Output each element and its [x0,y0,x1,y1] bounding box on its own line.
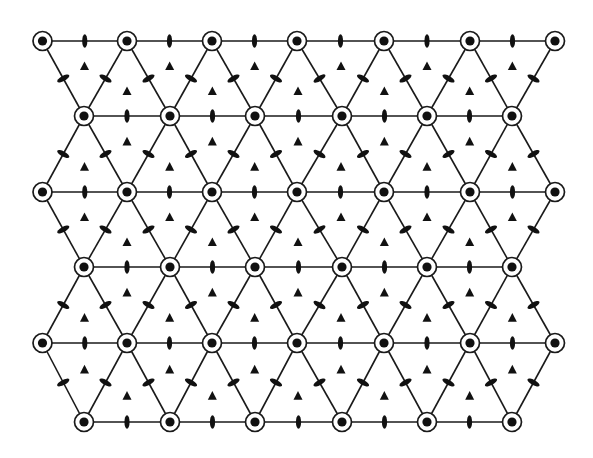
two-fold-axis-icon [312,377,326,388]
three-fold-axis-icon [123,86,132,95]
node-dot [250,262,259,271]
node-dot [337,417,346,426]
node-dot [79,262,88,271]
two-fold-axis-icon [167,185,172,199]
six-fold-axis-icon [246,413,265,432]
three-fold-axis-icon [250,162,259,171]
three-fold-axis-icon [250,313,259,322]
two-fold-axis-icon [184,73,198,84]
two-fold-axis-icon [484,224,498,235]
six-fold-axis-icon [118,334,137,353]
two-fold-axis-icon [226,73,240,84]
six-fold-axis-icon [503,413,522,432]
node-dot [292,187,301,196]
node-dot [122,338,131,347]
six-fold-axis-icon [461,334,480,353]
three-fold-axis-icon [508,212,517,221]
node-dot [38,36,47,45]
two-fold-axis-icon [210,260,215,274]
node-dot [292,338,301,347]
two-fold-axis-icon [56,299,70,310]
two-fold-axis-icon [510,185,515,199]
three-fold-axis-icon [508,61,517,70]
two-fold-axis-icon [424,336,429,350]
six-fold-axis-icon [203,183,222,202]
node-dot [550,338,559,347]
two-fold-axis-icon [82,336,87,350]
two-fold-axis-icon [484,377,498,388]
three-fold-axis-icon [465,86,474,95]
three-fold-axis-icon [123,391,132,400]
two-fold-axis-icon [98,377,112,388]
node-dot [207,187,216,196]
node-dot [337,262,346,271]
two-fold-axis-icon [141,299,155,310]
node-dot [292,36,301,45]
two-fold-axis-icon [252,336,257,350]
six-fold-axis-icon [375,334,394,353]
two-fold-axis-icon [98,73,112,84]
two-fold-axis-icon [252,185,257,199]
six-fold-axis-icon [161,258,180,277]
two-fold-axis-icon [398,224,412,235]
three-fold-axis-icon [123,137,132,146]
two-fold-axis-icon [526,73,540,84]
node-dot [507,262,516,271]
node-dot [165,417,174,426]
two-fold-axis-icon [382,260,387,274]
three-fold-axis-icon [294,288,303,297]
three-fold-axis-icon [423,313,432,322]
two-fold-axis-icon [526,224,540,235]
six-fold-axis-icon [288,334,307,353]
three-fold-axis-icon [337,212,346,221]
two-fold-axis-icon [124,260,129,274]
three-fold-axis-icon [294,86,303,95]
two-fold-axis-icon [252,34,257,48]
two-fold-axis-icon [467,415,472,429]
two-fold-axis-icon [269,224,283,235]
node-dot [79,417,88,426]
three-fold-axis-icon [465,137,474,146]
two-fold-axis-icon [356,148,370,159]
three-fold-axis-icon [123,237,132,246]
three-fold-axis-icon [208,288,217,297]
three-fold-axis-icon [208,86,217,95]
two-fold-axis-icon [424,34,429,48]
six-fold-axis-icon [33,183,52,202]
node-dot [422,111,431,120]
two-fold-axis-icon [398,148,412,159]
three-fold-axis-icon [165,61,174,70]
six-fold-axis-icon [33,334,52,353]
two-fold-axis-icon [484,148,498,159]
two-fold-axis-icon [398,377,412,388]
six-fold-axis-icon [461,32,480,51]
two-fold-axis-icon [210,415,215,429]
two-fold-axis-icon [56,148,70,159]
node-dot [79,111,88,120]
three-fold-axis-icon [337,365,346,374]
two-fold-axis-icon [269,148,283,159]
two-fold-axis-icon [98,148,112,159]
two-fold-axis-icon [82,34,87,48]
six-fold-axis-icon [461,183,480,202]
two-fold-axis-icon [338,185,343,199]
node-dot [165,262,174,271]
six-fold-axis-icon [288,183,307,202]
six-fold-axis-icon [161,107,180,126]
node-dot [507,111,516,120]
node-dot [379,187,388,196]
two-fold-axis-icon [98,224,112,235]
node-dot [465,187,474,196]
two-fold-axis-icon [338,34,343,48]
node-dot [207,36,216,45]
six-fold-axis-icon [118,32,137,51]
two-fold-axis-icon [167,336,172,350]
three-fold-axis-icon [250,212,259,221]
node-dot [550,36,559,45]
three-fold-axis-icon [380,137,389,146]
three-fold-axis-icon [380,288,389,297]
three-fold-axis-icon [294,237,303,246]
six-fold-axis-icon [418,413,437,432]
two-fold-axis-icon [338,336,343,350]
six-fold-axis-icon [333,258,352,277]
